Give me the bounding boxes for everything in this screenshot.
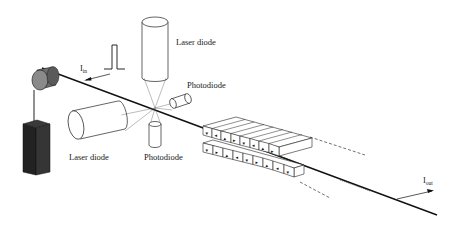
wire-undulator-diagram: Iin Laser diode Photodiode Laser dio xyxy=(0,0,458,228)
input-pulse xyxy=(104,45,125,69)
laser-diode-top xyxy=(142,17,168,82)
photodiode-right xyxy=(168,93,192,109)
spool xyxy=(32,67,59,91)
current-out-label: Iout xyxy=(423,175,433,186)
photodiode-right-label: Photodiode xyxy=(187,80,226,90)
current-in-label: Iin xyxy=(80,63,87,74)
photodiode-bottom-label: Photodiode xyxy=(144,152,183,162)
current-in-arrow xyxy=(84,74,110,81)
laser-diode-left-label: Laser diode xyxy=(69,152,109,162)
laser-diode-left xyxy=(66,101,128,141)
current-out-arrow xyxy=(397,189,434,199)
laser-beams xyxy=(121,78,172,131)
laser-diode-top-label: Laser diode xyxy=(176,37,216,47)
photodiode-bottom xyxy=(149,122,161,148)
weight xyxy=(23,120,50,175)
